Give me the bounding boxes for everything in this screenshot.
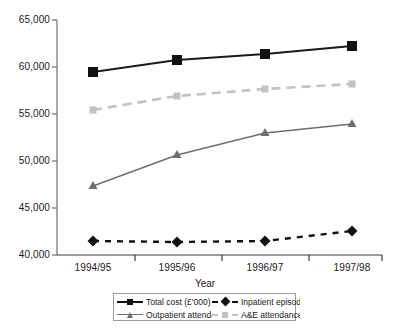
x-axis-ticks <box>135 255 382 261</box>
legend-entry-outpatient-attendances: Outpatient attendances <box>117 309 212 320</box>
legend-entry-inpatient-episodes: Inpatient episodes <box>212 296 300 307</box>
legend-entry-total-cost: Total cost (£'000) <box>117 296 212 307</box>
legend-key-inpatient-episodes-icon <box>212 297 238 307</box>
data-point-ae-1995-96 <box>174 93 181 100</box>
legend-key-ae-attendances-icon <box>212 310 238 320</box>
data-point-total-cost-1994-95 <box>88 67 98 77</box>
legend-entry-ae-attendances: A&E attendances <box>212 309 300 320</box>
line-chart: 65,000 60,000 55,000 50,000 45,000 40,00… <box>0 0 408 330</box>
data-point-inpatient-1994-95 <box>88 236 99 247</box>
series-outpatient-attendances <box>89 119 357 189</box>
data-point-inpatient-1996-97 <box>260 236 271 247</box>
data-point-ae-1996-97 <box>262 86 269 93</box>
chart-legend: Total cost (£'000) Inpatient episodes Ou… <box>113 293 296 321</box>
data-point-total-cost-1995-96 <box>172 55 182 65</box>
series-ae-attendances <box>90 81 356 114</box>
data-point-inpatient-1997-98 <box>347 226 358 237</box>
plot-area <box>0 0 408 330</box>
legend-label-total-cost: Total cost (£'000) <box>146 297 210 307</box>
data-point-total-cost-1996-97 <box>260 49 270 59</box>
legend-label-inpatient-episodes: Inpatient episodes <box>241 297 300 307</box>
legend-label-ae-attendances: A&E attendances <box>241 310 300 320</box>
series-inpatient-episodes <box>88 226 358 248</box>
data-point-inpatient-1995-96 <box>172 237 183 248</box>
y-axis-ticks <box>52 20 57 255</box>
data-point-ae-1994-95 <box>90 107 97 114</box>
legend-key-outpatient-attendances-icon <box>117 310 143 320</box>
legend-key-total-cost-icon <box>117 297 143 307</box>
series-total-cost <box>88 41 357 77</box>
data-point-outpatient-1997-98 <box>348 119 357 127</box>
data-point-ae-1997-98 <box>349 81 356 88</box>
legend-label-outpatient-attendances: Outpatient attendances <box>146 310 212 320</box>
data-point-total-cost-1997-98 <box>347 41 357 51</box>
